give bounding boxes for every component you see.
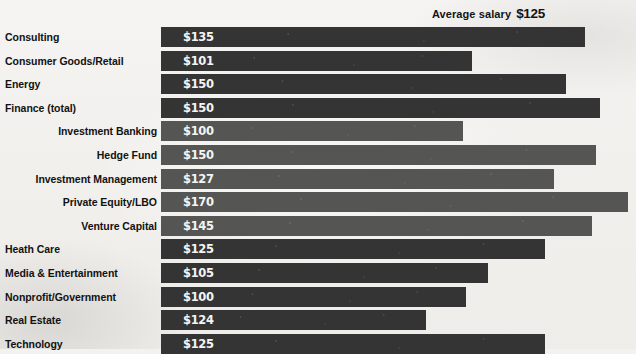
average-salary-label: Average salary	[432, 8, 511, 20]
value-bar: $101	[161, 51, 472, 71]
category-label: Media & Entertainment	[5, 263, 118, 283]
bar-row: Private Equity/LBO$170	[0, 192, 636, 212]
value-bar: $150	[161, 98, 600, 118]
value-bar: $100	[161, 287, 466, 307]
bar-value-label: $101	[183, 51, 214, 71]
category-label: Finance (total)	[5, 98, 76, 118]
category-label: Hedge Fund	[0, 145, 157, 165]
category-label: Real Estate	[5, 310, 61, 330]
bar-row: Heath Care$125	[0, 239, 636, 259]
bar-value-label: $124	[183, 310, 214, 330]
bar-value-label: $127	[183, 169, 214, 189]
category-label: Consulting	[5, 27, 59, 47]
value-bar: $125	[161, 239, 545, 259]
bar-row: Technology$125	[0, 334, 636, 354]
bar-value-label: $150	[183, 98, 214, 118]
category-label: Technology	[5, 334, 63, 354]
value-bar: $135	[161, 27, 585, 47]
category-label: Investment Banking	[0, 121, 157, 141]
bar-value-label: $100	[183, 121, 214, 141]
average-salary-value: $125	[516, 6, 545, 21]
bar-row: Investment Banking$100	[0, 121, 636, 141]
bar-row: Consulting$135	[0, 27, 636, 47]
value-bar: $170	[161, 192, 628, 212]
bar-value-label: $170	[183, 192, 214, 212]
bar-row: Media & Entertainment$105	[0, 263, 636, 283]
category-label: Private Equity/LBO	[0, 192, 157, 212]
bar-value-label: $150	[183, 74, 214, 94]
bar-row: Venture Capital$145	[0, 216, 636, 236]
category-label: Heath Care	[5, 239, 60, 259]
bar-value-label: $150	[183, 145, 214, 165]
value-bar: $150	[161, 74, 566, 94]
bar-value-label: $125	[183, 334, 214, 354]
category-label: Investment Management	[0, 169, 157, 189]
category-label: Nonprofit/Government	[5, 287, 116, 307]
value-bar: $105	[161, 263, 488, 283]
value-bar: $125	[161, 334, 545, 354]
value-bar: $145	[161, 216, 592, 236]
bar-row: Nonprofit/Government$100	[0, 287, 636, 307]
bar-value-label: $125	[183, 239, 214, 259]
category-label: Energy	[5, 74, 40, 94]
bar-row: Finance (total)$150	[0, 98, 636, 118]
bar-value-label: $100	[183, 287, 214, 307]
bar-row: Energy$150	[0, 74, 636, 94]
bar-row: Investment Management$127	[0, 169, 636, 189]
value-bar: $124	[161, 310, 426, 330]
bar-row: Consumer Goods/Retail$101	[0, 51, 636, 71]
value-bar: $127	[161, 169, 554, 189]
category-label: Consumer Goods/Retail	[5, 51, 124, 71]
value-bar: $150	[161, 145, 596, 165]
bar-value-label: $135	[183, 27, 214, 47]
value-bar: $100	[161, 121, 463, 141]
bar-row: Hedge Fund$150	[0, 145, 636, 165]
bar-value-label: $105	[183, 263, 214, 283]
chart-header: Average salary$125	[0, 6, 545, 21]
bar-value-label: $145	[183, 216, 214, 236]
category-label: Venture Capital	[0, 216, 157, 236]
bar-row: Real Estate$124	[0, 310, 636, 330]
